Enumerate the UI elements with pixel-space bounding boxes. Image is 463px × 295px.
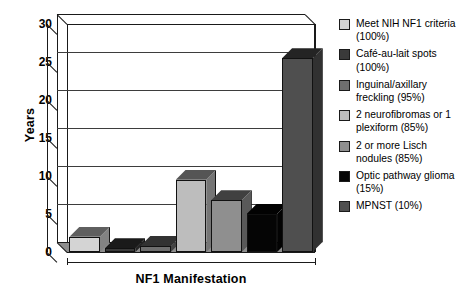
legend-entry[interactable]: 2 neurofibromas or 1 plexiform (85%)	[339, 108, 463, 134]
legend-entry[interactable]: Inguinal/axillary freckling (95%)	[339, 78, 463, 104]
legend-color-swatch	[339, 141, 350, 152]
legend-color-swatch	[339, 80, 350, 91]
bar	[211, 14, 241, 252]
bar-front-face	[69, 237, 99, 252]
x-axis-line	[67, 262, 315, 263]
plot-area	[57, 14, 325, 264]
legend-entry[interactable]: Café-au-lait spots (100%)	[339, 47, 463, 73]
bar-front-face	[211, 200, 241, 252]
bar	[140, 14, 170, 252]
legend-entry[interactable]: Meet NIH NF1 criteria (100%)	[339, 17, 463, 43]
bar	[247, 14, 277, 252]
legend-entry[interactable]: MPNST (10%)	[339, 199, 463, 212]
legend-color-swatch	[339, 19, 350, 30]
floor-front-edge	[67, 252, 315, 253]
bar-front-face	[176, 180, 206, 252]
bar-front-face	[105, 248, 135, 252]
bar-front-face	[247, 214, 277, 252]
bar	[176, 14, 206, 252]
legend-label: 2 or more Lisch nodules (85%)	[356, 139, 459, 165]
legend-label: Meet NIH NF1 criteria (100%)	[356, 17, 459, 43]
legend-color-swatch	[339, 49, 350, 60]
bar-chart-figure: Years 302520151050 NF1 Manifestation Mee…	[0, 0, 463, 295]
bar-front-face	[282, 58, 312, 252]
legend-label: Inguinal/axillary freckling (95%)	[356, 78, 459, 104]
chart-legend: Meet NIH NF1 criteria (100%)Café-au-lait…	[339, 17, 463, 217]
legend-label: Optic pathway glioma (15%)	[356, 169, 459, 195]
legend-label: Café-au-lait spots (100%)	[356, 47, 459, 73]
legend-color-swatch	[339, 110, 350, 121]
bar-side-face	[313, 48, 323, 252]
legend-entry[interactable]: Optic pathway glioma (15%)	[339, 169, 463, 195]
legend-color-swatch	[339, 171, 350, 182]
x-axis-title: NF1 Manifestation	[57, 272, 325, 286]
x-axis-tick-mark	[67, 258, 68, 265]
legend-label: 2 neurofibromas or 1 plexiform (85%)	[356, 108, 459, 134]
x-axis-tick-mark	[315, 258, 316, 265]
bar-front-face	[140, 246, 170, 252]
legend-label: MPNST (10%)	[356, 199, 422, 212]
legend-color-swatch	[339, 201, 350, 212]
legend-entry[interactable]: 2 or more Lisch nodules (85%)	[339, 139, 463, 165]
bar	[105, 14, 135, 252]
bar	[282, 14, 312, 252]
bar	[69, 14, 99, 252]
